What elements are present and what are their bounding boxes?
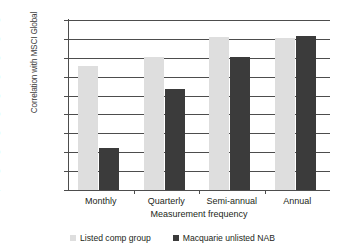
y-axis-tick [64,20,68,21]
bar-quarterly-unlisted [165,89,185,190]
gridline [68,20,330,21]
category-separator [134,190,135,194]
bar-annual-unlisted [296,36,316,190]
legend-entry-unlisted[interactable]: Macquarie unlisted NAB [173,233,275,243]
x-axis-label-semi-annual: Semi-annual [199,196,265,206]
legend-swatch-icon [70,235,76,241]
y-axis-title: Correlation with MSCI Global [30,0,39,143]
x-axis-label-annual: Annual [265,196,331,206]
y-axis-tick [64,171,68,172]
y-axis-tick [64,152,68,153]
y-axis-line [68,19,69,191]
legend-entry-listed[interactable]: Listed comp group [70,233,151,243]
y-axis-tick [64,58,68,59]
x-axis-label-quarterly: Quarterly [134,196,200,206]
y-axis-tick [64,39,68,40]
bar-annual-listed [275,38,295,190]
y-axis-tick [64,114,68,115]
bar-semi-annual-unlisted [230,57,250,190]
bar-semi-annual-listed [209,37,229,190]
legend-label: Macquarie unlisted NAB [183,233,275,243]
bar-monthly-listed [78,66,98,190]
plot-area [68,20,330,190]
legend-label: Listed comp group [80,233,151,243]
x-axis-label-monthly: Monthly [68,196,134,206]
y-axis-tick [64,96,68,97]
bar-chart-figure: Correlation with MSCI Global -0.100.200.… [0,0,345,252]
chart-legend: Listed comp groupMacquarie unlisted NAB [0,233,345,243]
y-axis-tick [64,77,68,78]
x-axis-title: Measurement frequency [68,209,330,219]
bar-quarterly-listed [144,57,164,190]
bar-monthly-unlisted [99,148,119,190]
y-axis-tick [64,133,68,134]
legend-swatch-icon [173,235,179,241]
category-separator [265,190,266,194]
category-separator [199,190,200,194]
